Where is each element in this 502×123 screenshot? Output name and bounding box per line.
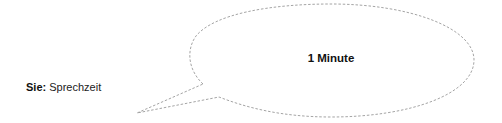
speech-bubble-shape — [0, 0, 502, 123]
speaker-name: Sie: — [26, 81, 46, 93]
speaker-label: Sie: Sprechzeit — [26, 81, 101, 94]
diagram-canvas: 1 Minute Sie: Sprechzeit — [0, 0, 502, 123]
bubble-duration-text: 1 Minute — [281, 51, 381, 65]
speaker-role: Sprechzeit — [49, 81, 101, 93]
